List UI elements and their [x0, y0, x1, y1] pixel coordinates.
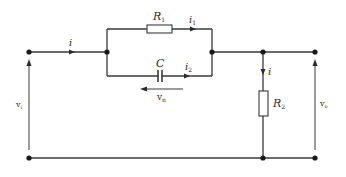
label-vo: vo	[319, 99, 328, 109]
node-input-top	[26, 49, 31, 54]
label-r1: R1	[152, 10, 165, 23]
node-parallel-right	[209, 49, 214, 54]
node-r2-bottom	[260, 155, 265, 160]
node-output-top	[312, 49, 317, 54]
label-vn: vn	[156, 92, 166, 103]
node-output-bottom	[312, 155, 317, 160]
node-input-bottom	[26, 155, 31, 160]
circuit-diagram: i R1 i1 C i2 vn i R2 vi vo	[0, 0, 346, 177]
vn-arrow-icon	[140, 87, 147, 92]
label-i2: i2	[185, 61, 192, 73]
resistor-r1	[147, 25, 172, 33]
label-r2: R2	[272, 97, 285, 110]
i2-current-arrow-icon	[184, 74, 190, 79]
label-r2-current: i	[268, 66, 271, 77]
label-capacitor: C	[156, 57, 165, 70]
i1-current-arrow-icon	[190, 27, 196, 32]
node-r2-top	[260, 49, 265, 54]
resistor-r2	[259, 91, 268, 116]
label-vi: vi	[15, 100, 23, 110]
vi-arrow-icon	[27, 59, 32, 66]
label-input-current: i	[69, 37, 72, 48]
r2-current-arrow-icon	[261, 69, 266, 75]
input-current-arrow-icon	[69, 50, 75, 55]
node-parallel-left	[104, 49, 109, 54]
vo-arrow-icon	[313, 59, 318, 66]
label-i1: i1	[189, 14, 196, 26]
